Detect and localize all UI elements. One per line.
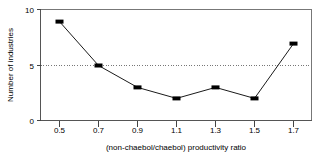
data-point [95, 64, 103, 68]
x-axis-title: (non-chaebol/chaebol) productivity ratio [106, 143, 247, 152]
data-point [212, 85, 220, 89]
y-axis-title: Number of industries [6, 28, 15, 102]
line-chart: 0 5 10 0.5 0.7 0.9 1.1 1.3 1.5 1.7 (non-… [0, 0, 329, 156]
x-tick-label-3: 1.1 [171, 126, 183, 135]
x-tick-label-1: 0.7 [93, 126, 105, 135]
data-point [173, 96, 181, 100]
x-tick-label-5: 1.5 [249, 126, 261, 135]
chart-background [0, 0, 329, 156]
y-tick-label-10: 10 [25, 6, 34, 15]
x-tick-label-0: 0.5 [54, 126, 66, 135]
chart-container: 0 5 10 0.5 0.7 0.9 1.1 1.3 1.5 1.7 (non-… [0, 0, 329, 156]
data-point [251, 96, 259, 100]
x-tick-label-6: 1.7 [288, 126, 300, 135]
y-tick-label-5: 5 [30, 62, 35, 71]
data-point [290, 42, 298, 46]
data-point [134, 85, 142, 89]
x-tick-label-4: 1.3 [210, 126, 222, 135]
y-tick-label-0: 0 [30, 117, 35, 126]
data-point [56, 20, 64, 24]
x-tick-label-2: 0.9 [132, 126, 144, 135]
